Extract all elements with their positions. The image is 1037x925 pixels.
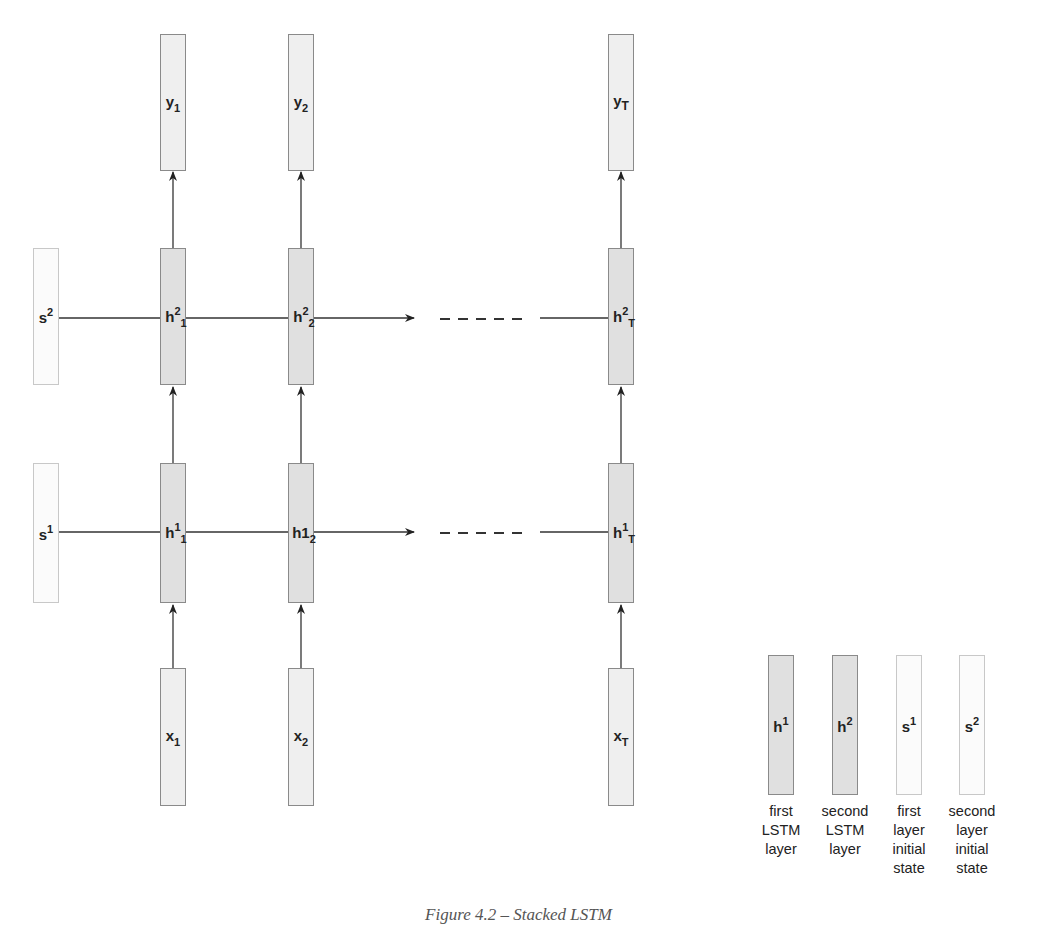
label-base: h1	[292, 524, 310, 541]
output-yT: yT	[608, 34, 634, 171]
output-y2: y2	[288, 34, 314, 171]
legend-swatch-s2: s2	[959, 655, 985, 795]
figure-caption: Figure 4.2 – Stacked LSTM	[0, 905, 1037, 925]
label-sup: 1	[910, 715, 916, 727]
initial-state-s1: s1	[33, 463, 59, 603]
label-base: y	[166, 93, 174, 110]
legend-swatch-s1: s1	[896, 655, 922, 795]
label-sub: T	[628, 317, 635, 329]
label-base: h	[773, 718, 782, 735]
legend-swatch-h2: h2	[832, 655, 858, 795]
label-sup: 2	[847, 715, 853, 727]
legend-label-second-layer-initial-state: second layer initial state	[932, 802, 1012, 878]
label-sup: 2	[174, 305, 180, 317]
label-sub: T	[628, 533, 635, 545]
label-sub: 2	[302, 736, 308, 748]
label-base: x	[166, 727, 174, 744]
lstm-cell-h1-2: h12	[288, 463, 314, 603]
legend-line: state	[932, 859, 1012, 878]
label-sub: T	[622, 736, 629, 748]
lstm-cell-h2-2: h22	[288, 248, 314, 385]
label-sub: 1	[181, 533, 187, 545]
label-base: h	[837, 718, 846, 735]
label-sub: 1	[174, 102, 180, 114]
label-sup: 2	[302, 305, 308, 317]
initial-state-s2: s2	[33, 248, 59, 385]
lstm-cell-h1-1: h11	[160, 463, 186, 603]
label-sub: 2	[310, 533, 316, 545]
label-base: s	[39, 309, 47, 326]
input-x1: x1	[160, 668, 186, 806]
label-sup: 2	[622, 305, 628, 317]
label-sub: 2	[309, 317, 315, 329]
legend-line: initial	[932, 840, 1012, 859]
output-y1: y1	[160, 34, 186, 171]
label-sup: 2	[973, 715, 979, 727]
label-sup: 1	[622, 521, 628, 533]
legend-swatch-h1: h1	[768, 655, 794, 795]
lstm-cell-h1-T: h1T	[608, 463, 634, 603]
label-base: s	[965, 718, 973, 735]
label-sup: 1	[47, 523, 53, 535]
lstm-cell-h2-1: h21	[160, 248, 186, 385]
label-base: y	[294, 93, 302, 110]
label-base: h	[613, 308, 622, 325]
legend-line: layer	[932, 821, 1012, 840]
label-base: s	[902, 718, 910, 735]
lstm-cell-h2-T: h2T	[608, 248, 634, 385]
input-x2: x2	[288, 668, 314, 806]
input-xT: xT	[608, 668, 634, 806]
label-sub: 2	[302, 102, 308, 114]
label-sub: 1	[181, 317, 187, 329]
label-base: y	[613, 92, 621, 109]
label-sub: T	[622, 99, 629, 113]
ellipsis-dashes	[440, 319, 526, 533]
label-base: x	[294, 727, 302, 744]
label-base: h	[613, 524, 622, 541]
legend-line: second	[932, 802, 1012, 821]
label-base: s	[39, 526, 47, 543]
label-sup: 1	[783, 715, 789, 727]
label-sup: 2	[47, 306, 53, 318]
label-sup: 1	[174, 521, 180, 533]
label-sub: 1	[174, 736, 180, 748]
label-base: x	[613, 727, 621, 744]
